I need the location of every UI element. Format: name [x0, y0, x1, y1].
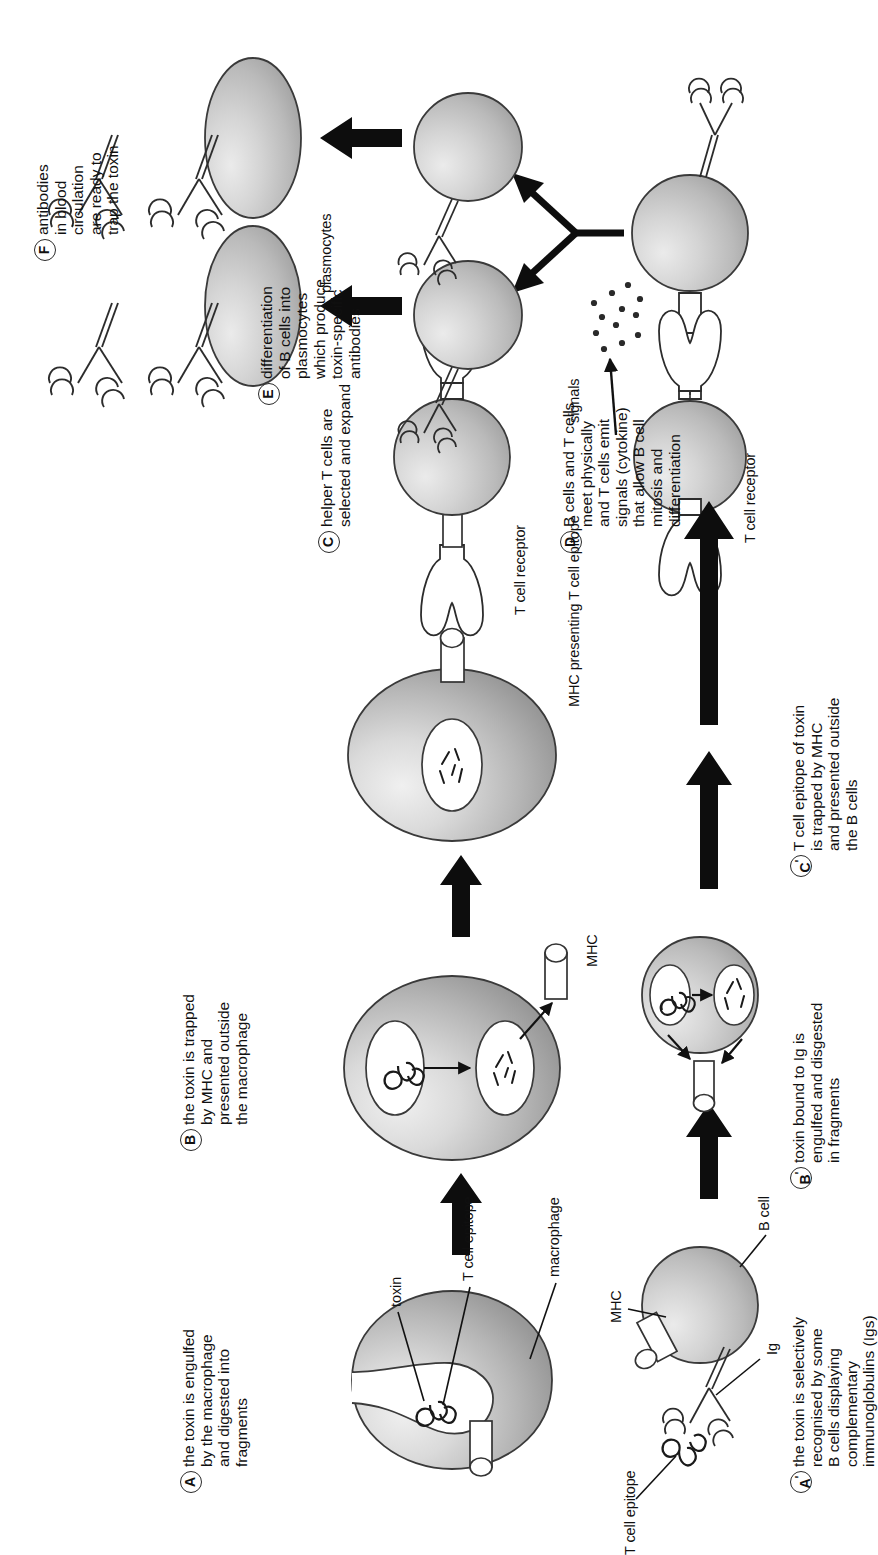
- step-text-B: the toxin is trapped by MHC and presente…: [180, 994, 250, 1125]
- label-macrophage: macrophage: [546, 1197, 562, 1277]
- step-badge-E: E: [258, 383, 280, 405]
- step-text-C: helper T cells are selected and expand: [318, 384, 353, 527]
- label-signals: signals: [566, 379, 582, 423]
- label-mhc: MHC: [584, 934, 600, 967]
- step-text-E: differentiation of B cells into plasmocy…: [258, 279, 364, 379]
- prime-mark-B: ': [793, 1172, 807, 1175]
- step-badge-B-prime: B': [790, 1167, 812, 1189]
- step-text-A-prime: the toxin is selectively recognised by s…: [790, 1315, 878, 1467]
- label-mhc-presenting: MHC presenting T cell epitope: [566, 515, 582, 707]
- prime-mark-C: ': [793, 860, 807, 863]
- step-badge-A-prime: A': [790, 1471, 812, 1493]
- step-text-A: the toxin is engulfed by the macrophage …: [180, 1329, 250, 1467]
- label-t-cell-epitope-b: T cell epitope: [622, 1470, 638, 1555]
- label-mhc-b: MHC: [608, 1290, 624, 1323]
- label-plasmocytes: plasmocytes: [318, 214, 334, 294]
- label-t-cell-receptor-top: T cell receptor: [512, 525, 528, 615]
- step-text-F: antibodies in blood circulation are read…: [34, 145, 122, 235]
- label-toxin: toxin: [388, 1277, 404, 1307]
- step-badge-C-prime: C': [790, 855, 812, 877]
- step-badge-F: F: [34, 239, 56, 261]
- step-badge-A: A: [180, 1471, 202, 1493]
- step-text-C-prime: T cell epitope of toxin is trapped by MH…: [790, 698, 860, 851]
- step-badge-C: C: [318, 531, 340, 553]
- label-t-cell-epitope: T cell epitope: [460, 1196, 476, 1281]
- prime-mark-A: ': [793, 1476, 807, 1479]
- label-b-cell: B cell: [756, 1196, 772, 1231]
- label-t-cell-receptor-bottom: T cell receptor: [742, 453, 758, 543]
- step-text-B-prime: toxin bound to Ig is engulfed and disges…: [790, 1003, 843, 1163]
- label-ig: Ig: [764, 1343, 780, 1355]
- step-badge-B: B: [180, 1129, 202, 1151]
